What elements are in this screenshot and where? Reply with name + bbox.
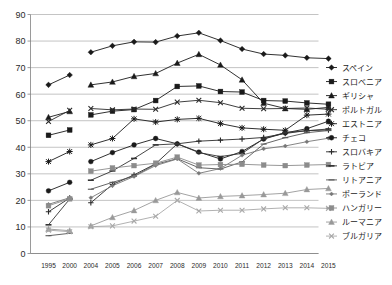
chart-svg: 0102030405060708090 19952000200420052006… xyxy=(0,0,392,285)
data-point-marker xyxy=(329,65,335,71)
legend-item[interactable]: スロバキア xyxy=(326,148,382,157)
y-axis-ticks: 0102030405060708090 xyxy=(15,10,30,259)
x-tick-label: 2015 xyxy=(321,262,336,269)
data-series xyxy=(46,198,331,234)
x-tick-label: 2008 xyxy=(170,262,185,269)
x-axis-ticks: 1995200020042005200620072008200920102011… xyxy=(41,262,336,269)
legend-label: ギリシャ xyxy=(342,92,374,101)
data-point-marker xyxy=(46,188,51,193)
data-point-marker xyxy=(239,125,245,131)
y-tick-label: 70 xyxy=(15,63,25,73)
data-point-marker xyxy=(88,142,94,148)
data-series xyxy=(46,185,332,233)
data-point-marker xyxy=(88,112,93,117)
series-line-segment xyxy=(91,157,329,171)
chart-legend: スペインスロベニアギリシャポルトガルエストニアチェコスロバキアラトビアリトアニア… xyxy=(326,64,382,242)
data-point-marker xyxy=(46,82,52,88)
data-point-marker xyxy=(330,192,334,196)
legend-label: ポーランド xyxy=(342,190,382,199)
data-point-marker xyxy=(46,203,51,208)
data-point-marker xyxy=(282,53,288,59)
legend-item[interactable]: リトアニア xyxy=(326,176,382,185)
data-point-marker xyxy=(88,169,93,174)
legend-item[interactable]: スロベニア xyxy=(326,78,382,87)
x-tick-label: 2014 xyxy=(300,262,315,269)
data-point-marker xyxy=(46,209,51,214)
data-point-marker xyxy=(218,62,224,67)
legend-item[interactable]: ラトビア xyxy=(326,162,374,171)
data-point-marker xyxy=(153,39,159,45)
data-point-marker xyxy=(88,159,93,164)
x-tick-label: 2009 xyxy=(192,262,207,269)
data-point-marker xyxy=(67,196,72,201)
y-tick-label: 30 xyxy=(15,169,25,179)
legend-item[interactable]: ブルガリア xyxy=(326,231,382,241)
data-point-marker xyxy=(239,136,244,141)
x-tick-label: 2005 xyxy=(105,262,120,269)
data-point-marker xyxy=(110,166,115,171)
series-line-segment xyxy=(91,33,329,59)
legend-label: ブルガリア xyxy=(342,231,382,241)
x-tick-label: 2004 xyxy=(84,262,99,269)
legend-label: スペイン xyxy=(342,64,373,73)
data-point-marker xyxy=(305,140,309,144)
data-point-marker xyxy=(196,138,201,143)
legend-label: スロベニア xyxy=(342,78,382,87)
x-tick-label: 2011 xyxy=(235,262,250,269)
series-line-segment xyxy=(91,129,329,180)
series-line-segment xyxy=(91,131,329,190)
data-point-marker xyxy=(89,196,93,200)
data-point-marker xyxy=(196,115,202,121)
data-point-marker xyxy=(239,77,245,82)
legend-label: ポルトガル xyxy=(342,105,382,115)
x-tick-label: 2013 xyxy=(278,262,293,269)
data-point-marker xyxy=(218,38,224,44)
data-point-marker xyxy=(67,149,73,155)
data-point-marker xyxy=(304,55,310,61)
legend-item[interactable]: エストニア xyxy=(326,120,382,129)
data-point-marker xyxy=(304,101,309,106)
line-chart: 0102030405060708090 19952000200420052006… xyxy=(0,0,392,285)
legend-item[interactable]: ハンガリー xyxy=(326,203,382,213)
data-point-marker xyxy=(88,49,94,55)
data-point-marker xyxy=(218,162,223,167)
data-point-marker xyxy=(329,79,334,84)
legend-item[interactable]: スペイン xyxy=(326,64,373,73)
y-tick-label: 10 xyxy=(15,222,25,232)
legend-item[interactable]: ポルトガル xyxy=(326,105,382,115)
x-tick-label: 1995 xyxy=(41,262,56,269)
data-point-marker xyxy=(153,98,158,103)
legend-item[interactable]: ギリシャ xyxy=(326,92,374,101)
data-point-marker xyxy=(132,142,137,147)
data-point-marker xyxy=(174,33,180,39)
data-point-marker xyxy=(175,84,180,89)
x-tick-label: 2010 xyxy=(213,262,228,269)
data-point-marker xyxy=(110,43,116,49)
data-point-marker xyxy=(174,116,180,122)
data-point-marker xyxy=(131,207,137,212)
data-point-marker xyxy=(67,72,73,78)
data-point-marker xyxy=(110,150,115,155)
data-point-marker xyxy=(88,223,94,228)
x-tick-label: 2006 xyxy=(127,262,142,269)
legend-item[interactable]: ポーランド xyxy=(326,190,382,199)
legend-label: スロバキア xyxy=(342,148,382,157)
legend-item[interactable]: ルーマニア xyxy=(326,218,382,227)
data-point-marker xyxy=(174,60,180,65)
gridlines xyxy=(31,15,319,254)
data-point-marker xyxy=(304,112,310,118)
y-tick-label: 0 xyxy=(20,249,25,259)
legend-label: エストニア xyxy=(342,120,382,129)
series-line-segment xyxy=(91,121,329,161)
y-tick-label: 60 xyxy=(15,90,25,100)
data-point-marker xyxy=(46,159,52,165)
data-point-marker xyxy=(132,163,137,168)
legend-item[interactable]: チェコ xyxy=(326,134,366,143)
data-point-marker xyxy=(196,51,202,56)
data-point-marker xyxy=(329,206,334,211)
series-line-segment xyxy=(91,188,329,225)
data-point-marker xyxy=(67,180,72,185)
data-point-marker xyxy=(196,163,201,168)
data-point-marker xyxy=(196,84,201,89)
legend-label: ラトビア xyxy=(342,162,374,171)
